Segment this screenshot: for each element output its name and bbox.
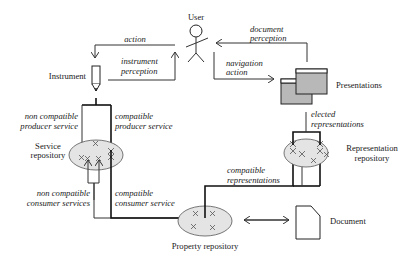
- architecture-diagram: User action instrument perception Instru…: [0, 0, 417, 264]
- instrument-perception-label-1: instrument: [121, 56, 158, 66]
- service-repository: [69, 140, 123, 170]
- representation-repository-label-1: Representation: [346, 143, 398, 153]
- user-label: User: [188, 12, 204, 22]
- presentations-label: Presentations: [336, 80, 382, 90]
- representation-repository: [284, 139, 329, 167]
- action-label: action: [124, 34, 145, 44]
- compatible-producer-label-1: compatible: [115, 111, 153, 121]
- service-repository-label-2: repository: [31, 150, 67, 160]
- instrument-icon: [92, 66, 100, 91]
- compatible-representations-label-1: compatible: [227, 165, 265, 175]
- instrument-perception-label-2: perception: [120, 66, 157, 76]
- non-compatible-consumer-label-1: non compatible: [37, 188, 90, 198]
- property-repository-label: Property repository: [172, 241, 239, 251]
- user-icon: [186, 25, 208, 62]
- elected-representations-label-1: elected: [311, 109, 336, 119]
- document-icon: [296, 206, 320, 239]
- non-compatible-consumer-label-2: consumer services: [27, 198, 91, 208]
- compatible-representations-label-2: representations: [227, 175, 280, 185]
- document-perception-label-2: perception: [249, 33, 286, 43]
- document-label: Document: [330, 216, 366, 226]
- instrument-label: Instrument: [49, 71, 87, 81]
- compatible-producer-label-2: producer service: [114, 121, 173, 131]
- representation-repository-label-2: repository: [355, 153, 391, 163]
- elected-representations-label-2: representations: [311, 119, 364, 129]
- navigation-action-label-2: action: [226, 67, 247, 77]
- compatible-consumer-label-1: compatible: [115, 188, 153, 198]
- presentations-icon: [281, 69, 327, 104]
- non-compatible-producer-label-1: non compatible: [25, 111, 78, 121]
- compatible-consumer-label-2: consumer service: [115, 198, 175, 208]
- non-compatible-producer-label-2: producer service: [19, 121, 78, 131]
